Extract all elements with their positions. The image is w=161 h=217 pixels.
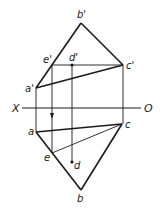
label-b: b xyxy=(77,193,83,204)
label-b-prime: b' xyxy=(77,9,86,20)
label-a: a xyxy=(28,126,34,137)
label-c: c xyxy=(125,119,131,130)
axis-label-x: X xyxy=(11,102,20,115)
line-e-c xyxy=(52,124,122,153)
label-d-prime: d' xyxy=(69,52,78,63)
label-c-prime: c' xyxy=(126,60,134,71)
edge-c-b xyxy=(81,124,122,190)
label-e-prime: e' xyxy=(43,54,52,65)
label-e: e xyxy=(44,152,50,163)
point-d-prime xyxy=(70,63,73,66)
arrow-down-icon xyxy=(50,113,54,119)
label-d: d xyxy=(74,160,81,171)
label-a-prime: a' xyxy=(25,83,34,94)
edge-b-prime-c-prime xyxy=(81,23,123,65)
projection-diagram: X O b' e' d' c' a' a c e d b xyxy=(0,0,161,217)
diagram-svg: X O b' e' d' c' a' a c e d b xyxy=(0,0,161,217)
axis-label-o: O xyxy=(144,102,153,115)
edge-a-c xyxy=(36,124,122,132)
